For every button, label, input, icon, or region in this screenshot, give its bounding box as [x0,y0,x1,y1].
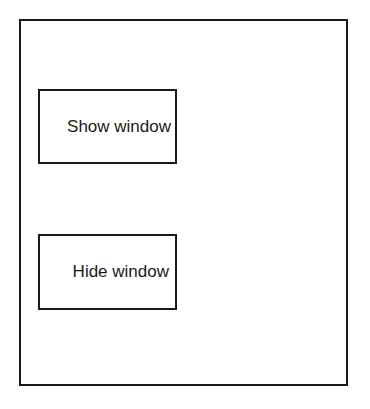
show-window-button[interactable]: Show window [38,89,177,164]
hide-window-button[interactable]: Hide window [38,234,177,310]
hide-window-label: Hide window [73,262,169,282]
app-window [19,19,348,386]
show-window-label: Show window [67,117,171,137]
